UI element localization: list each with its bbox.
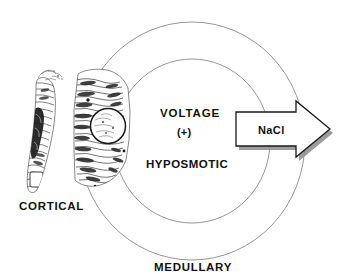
medullary-thick-cell-sketch bbox=[74, 69, 131, 187]
nucleus-circle bbox=[91, 109, 126, 144]
voltage-polarity-label: (+) bbox=[177, 127, 191, 138]
cortical-label: CORTICAL bbox=[19, 201, 84, 213]
cortical-thin-cell-sketch bbox=[26, 70, 63, 193]
voltage-label: VOLTAGE bbox=[160, 108, 220, 120]
hyposmotic-label: HYPOSMOTIC bbox=[146, 159, 228, 171]
nacl-label: NaCl bbox=[258, 125, 285, 136]
kidney-nephron-diagram: VOLTAGE (+) HYPOSMOTIC CORTICAL MEDULLAR… bbox=[0, 0, 348, 279]
diagram-canvas bbox=[0, 0, 348, 279]
medullary-label: MEDULLARY bbox=[154, 262, 232, 274]
